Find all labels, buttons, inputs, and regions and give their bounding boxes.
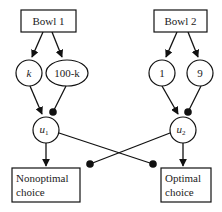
- u2-node: u2: [170, 117, 196, 143]
- edge-k-to-u1: [30, 86, 42, 114]
- nine-node: 9: [187, 60, 213, 86]
- edge-1-to-u2: [162, 86, 178, 114]
- optimal-choice-node: Optimal choice: [161, 168, 211, 202]
- nonoptimal-line2: choice: [16, 186, 45, 198]
- inhibitory-dot-icon: [49, 108, 57, 116]
- u1-node: u1: [33, 117, 59, 143]
- decision-network-diagram: Bowl 1 Bowl 2 k 100-k 1 9 u1 u2 Nonoptim…: [0, 0, 222, 212]
- optimal-line2: choice: [165, 186, 194, 198]
- nonoptimal-line1: Nonoptimal: [16, 172, 69, 184]
- 100-k-label: 100-k: [54, 67, 80, 79]
- edge-bowl2-to-9: [188, 32, 198, 57]
- nonoptimal-choice-node: Nonoptimal choice: [12, 168, 80, 202]
- inhibitory-dot-icon: [184, 108, 192, 116]
- bowl-2-label: Bowl 2: [164, 15, 196, 27]
- one-node: 1: [149, 60, 175, 86]
- inhibitory-dot-icon: [86, 160, 94, 168]
- optimal-line1: Optimal: [165, 172, 201, 184]
- inhibitory-dot-icon: [149, 160, 157, 168]
- bowl-2-node: Bowl 2: [154, 10, 207, 32]
- edge-u1-to-optimal-inhibitory: [59, 133, 153, 164]
- k-node: k: [16, 60, 42, 86]
- edge-bowl2-to-1: [166, 32, 177, 57]
- nine-label: 9: [197, 67, 203, 79]
- bowl-1-node: Bowl 1: [21, 10, 76, 32]
- bowl-1-label: Bowl 1: [32, 15, 64, 27]
- one-label: 1: [159, 67, 165, 79]
- edge-9-to-u2: [189, 86, 201, 110]
- edge-bowl1-to-100-k: [52, 32, 62, 57]
- edge-100-k-to-u1: [54, 86, 66, 110]
- edge-bowl1-to-k: [32, 32, 43, 57]
- edge-u2-to-nonoptimal-inhibitory: [90, 133, 170, 164]
- 100-k-node: 100-k: [46, 60, 88, 86]
